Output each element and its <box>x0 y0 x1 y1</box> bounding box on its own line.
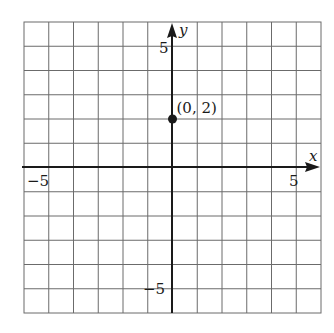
y-axis-arrow-icon <box>167 23 177 38</box>
x-tick-label-neg5: −5 <box>27 172 49 190</box>
coordinate-plane: x y −5 5 5 −5 (0, 2) <box>0 0 334 333</box>
y-tick-label-neg5: −5 <box>143 280 165 298</box>
y-axis-label: y <box>178 21 188 39</box>
x-axis-label: x <box>309 147 318 165</box>
x-tick-label-pos5: 5 <box>289 172 299 190</box>
data-point-label: (0, 2) <box>177 99 217 117</box>
y-tick-label-pos5: 5 <box>159 39 169 57</box>
